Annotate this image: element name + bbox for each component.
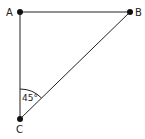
label-c: C: [16, 124, 23, 135]
point-c: [17, 116, 23, 122]
point-b: [127, 9, 133, 15]
point-a: [17, 9, 23, 15]
label-a: A: [6, 7, 13, 18]
label-b: B: [135, 7, 142, 18]
angle-label: 45°: [22, 93, 38, 103]
triangle-diagram: A B C 45°: [0, 0, 145, 139]
